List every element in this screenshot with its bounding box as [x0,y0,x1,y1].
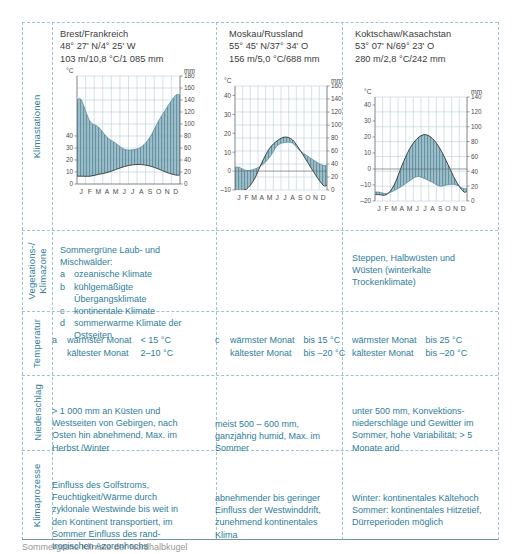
processes-col3: Winter: kontinentales Kältehoch Sommer: … [352,492,495,529]
grid-vline-4 [498,22,499,540]
svg-text:mm: mm [184,67,195,74]
svg-text:20: 20 [224,130,232,137]
svg-text:A: A [290,194,295,201]
svg-text:10: 10 [364,149,372,156]
svg-text:10: 10 [224,149,232,156]
svg-text:A: A [400,205,405,212]
svg-text:0: 0 [367,165,371,172]
vegetation-col3: Steppen, Halbwüsten und Wüsten (winterka… [352,252,487,289]
station-coords-1: 55° 45' N/37° 34' O [229,40,320,52]
row-label-climate-processes-text: Klimaprozesse [32,463,43,527]
temperature-col3-val-1: bis –20 °C [426,347,468,360]
svg-text:M: M [113,188,119,195]
svg-text:J: J [123,188,126,195]
temperature-col2-val-0: bis 15 °C [304,334,346,347]
svg-text:120: 120 [471,108,482,115]
climate-chart-brest: 010203040020406080100120140160180°CmmJFM… [47,66,215,218]
temperature-col2-letter: c [215,334,230,347]
svg-text:mm: mm [471,88,482,95]
row-label-climate-stations-text: Klimastationen [32,94,43,158]
svg-text:J: J [415,205,418,212]
row-label-temperature-text: Temperatur [32,318,43,367]
svg-text:S: S [298,194,303,201]
station-header-1: Moskau/Russland 55° 45' N/37° 34' O 156 … [229,28,320,65]
temperature-col1-val-1: 2–10 °C [141,347,174,360]
svg-text:N: N [165,188,170,195]
svg-text:20: 20 [364,133,372,140]
svg-text:A: A [430,205,435,212]
svg-text:J: J [275,194,278,201]
svg-text:O: O [305,194,310,201]
vegetation-col1-title: Sommergrüne Laub- und Mischwälder: [60,244,200,268]
svg-text:A: A [105,188,110,195]
grid-hline-1 [22,230,498,231]
svg-text:40: 40 [184,156,192,163]
svg-text:40: 40 [66,132,74,139]
svg-text:N: N [453,205,458,212]
processes-col2: abnehmender bis geringer Einfluss der We… [215,492,337,541]
svg-text:J: J [131,188,134,195]
row-label-vegetation-zones-text: Vegetations-/Klimazone [26,242,48,299]
svg-text:D: D [461,205,466,212]
climate-chart-moskau: –10010203040020406080100120140160°CmmJFM… [205,76,355,218]
svg-text:N: N [313,194,318,201]
temperature-col2-key-1: kältester Monat [230,347,304,360]
station-stats-0: 103 m/10,8 °C/1 085 mm [60,53,163,65]
svg-text:120: 120 [184,108,195,115]
precipitation-col2: meist 500 – 600 mm, ganzjährig humid, Ma… [215,418,333,455]
svg-text:0: 0 [69,180,73,187]
svg-text:20: 20 [471,183,479,190]
svg-text:30: 30 [364,117,372,124]
svg-text:0: 0 [184,180,188,187]
vegetation-item-letter: a [60,268,67,280]
svg-text:10: 10 [66,168,74,175]
vegetation-item-text: kontinentale Klimate [74,305,155,317]
station-stats-2: 280 m/2,8 °C/242 mm [355,53,451,65]
svg-text:160: 160 [184,84,195,91]
svg-text:80: 80 [331,134,339,141]
temperature-col3-key-1: kältester Monat [352,347,426,360]
svg-text:140: 140 [331,95,342,102]
vegetation-item-letter: b [60,281,67,305]
climate-comparison-sheet: Klimastationen Vegetations-/Klimazone Te… [0,0,519,554]
station-header-0: Brest/Frankreich 48° 27' N/4° 25' W 103 … [60,28,163,65]
svg-text:60: 60 [184,144,192,151]
svg-text:J: J [80,188,83,195]
svg-text:60: 60 [471,153,479,160]
vegetation-list-item: bkühlgemäßigte Übergangsklimate [60,281,200,305]
svg-text:F: F [244,194,248,201]
vegetation-item-text: kühlgemäßigte Übergangsklimate [74,281,200,305]
svg-text:S: S [148,188,153,195]
temperature-col3-val-0: bis 25 °C [426,334,468,347]
station-name-1: Moskau/Russland [229,28,320,40]
svg-text:M: M [267,194,273,201]
svg-text:D: D [321,194,326,201]
station-name-2: Koktschaw/Kasachstan [355,28,451,40]
vegetation-list-item: ckontinentale Klimate [60,305,200,317]
temperature-col2: c wärmster Monat bis 15 °C kältester Mon… [215,334,345,361]
svg-text:140: 140 [184,96,195,103]
svg-text:100: 100 [471,123,482,130]
svg-text:J: J [283,194,286,201]
temperature-col1-key-1: kältester Monat [67,347,141,360]
svg-text:0: 0 [471,197,475,204]
svg-text:–10: –10 [360,181,371,188]
svg-text:80: 80 [184,132,192,139]
svg-text:F: F [384,205,388,212]
grid-hline-3 [22,375,498,376]
temperature-col2-key-0: wärmster Monat [230,334,304,347]
temperature-col1-val-0: < 15 °C [141,334,174,347]
temperature-col2-val-1: bis –20 °C [304,347,346,360]
svg-text:40: 40 [364,101,372,108]
station-name-0: Brest/Frankreich [60,28,163,40]
row-label-precipitation-text: Niederschlag [32,384,43,441]
vegetation-item-letter: c [60,305,67,317]
svg-text:M: M [407,205,413,212]
svg-text:F: F [88,188,92,195]
vegetation-climate-list: aozeanische Klimatebkühlgemäßigte Überga… [60,268,200,341]
svg-text:0: 0 [227,167,231,174]
svg-text:0: 0 [331,186,335,193]
svg-text:O: O [445,205,450,212]
temperature-col3: wärmster Monat bis 25 °C kältester Monat… [352,334,467,361]
svg-text:120: 120 [331,108,342,115]
